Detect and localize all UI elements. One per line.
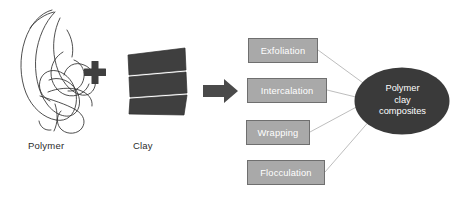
product-label-line-1: Polymer [355, 83, 450, 95]
arrow-right-icon [203, 79, 238, 103]
clay-layered-block-icon [128, 48, 187, 115]
structure-box-wrapping[interactable]: Wrapping [246, 120, 310, 145]
structure-box-exfoliation[interactable]: Exfoliation [248, 38, 318, 63]
product-label-line-3: composites [355, 106, 450, 118]
plus-icon [84, 61, 106, 84]
connector-flocculation [325, 119, 371, 172]
polymer-clay-composite-diagram: Polymer Clay Exfoliation Intercalation W… [0, 0, 459, 200]
product-label-line-2: clay [355, 95, 450, 107]
structure-box-flocculation[interactable]: Flocculation [247, 160, 325, 185]
clay-caption: Clay [133, 140, 153, 151]
product-label: Polymer clay composites [355, 83, 450, 118]
polymer-caption: Polymer [28, 140, 64, 151]
structure-box-intercalation[interactable]: Intercalation [247, 78, 327, 103]
